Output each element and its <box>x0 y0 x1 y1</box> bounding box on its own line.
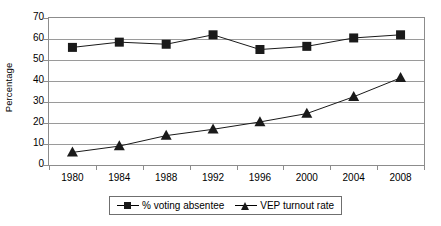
x-axis-tick-mark <box>283 166 284 170</box>
triangle-marker-icon <box>241 202 249 210</box>
x-axis-tick-label: 1980 <box>47 172 97 184</box>
x-axis-tick-mark <box>143 166 144 170</box>
y-axis-tick-labels: 706050403020100 <box>16 17 44 166</box>
y-axis-tick-label: 30 <box>20 96 44 106</box>
square-marker-icon <box>349 33 358 42</box>
square-marker-icon <box>209 30 218 39</box>
triangle-marker-icon <box>395 72 406 82</box>
legend-item[interactable]: VEP turnout rate <box>235 200 334 211</box>
x-axis-tick-mark <box>237 166 238 170</box>
y-axis-tick-label: 20 <box>20 117 44 127</box>
y-axis-tick-label: 40 <box>20 75 44 85</box>
series-square <box>68 30 405 54</box>
x-axis-tick-label: 1984 <box>94 172 144 184</box>
x-axis-tick-mark <box>377 166 378 170</box>
y-axis-tick-label: 50 <box>20 54 44 64</box>
x-axis-tick-marks <box>48 166 425 171</box>
square-marker-icon <box>68 43 77 52</box>
square-marker-icon <box>117 200 139 211</box>
plot-area <box>48 17 425 166</box>
chart-legend: % voting absenteeVEP turnout rate <box>109 196 342 215</box>
square-marker-icon <box>162 40 171 49</box>
legend-item[interactable]: % voting absentee <box>117 200 224 211</box>
x-axis-tick-label: 2000 <box>282 172 332 184</box>
x-axis-tick-label: 2008 <box>376 172 426 184</box>
plot-svg <box>49 18 424 165</box>
triangle-marker-icon <box>301 108 312 118</box>
series-triangle <box>67 72 406 157</box>
triangle-marker-icon <box>235 200 257 211</box>
y-axis-tick-label: 10 <box>20 138 44 148</box>
x-axis-tick-mark <box>96 166 97 170</box>
y-axis-tick-label: 70 <box>20 12 44 22</box>
y-axis-tick-label: 0 <box>20 159 44 169</box>
y-axis-title-label: Percentage <box>4 63 15 113</box>
square-marker-icon <box>124 202 131 209</box>
legend-item-label: VEP turnout rate <box>260 200 334 211</box>
x-axis-tick-label: 1996 <box>235 172 285 184</box>
square-marker-icon <box>255 45 264 54</box>
x-axis-tick-mark <box>330 166 331 170</box>
x-axis-tick-label: 2004 <box>329 172 379 184</box>
series-line <box>72 78 400 153</box>
x-axis-tick-label: 1992 <box>188 172 238 184</box>
line-chart: Percentage 706050403020100 1980198419881… <box>0 0 441 226</box>
legend-item-label: % voting absentee <box>142 200 224 211</box>
x-axis-tick-labels: 19801984198819921996200020042008 <box>48 172 425 186</box>
x-axis-tick-label: 1988 <box>141 172 191 184</box>
square-marker-icon <box>115 38 124 47</box>
triangle-marker-icon <box>348 91 359 101</box>
square-marker-icon <box>396 30 405 39</box>
x-axis-tick-mark <box>190 166 191 170</box>
square-marker-icon <box>302 42 311 51</box>
y-axis-tick-label: 60 <box>20 33 44 43</box>
x-axis-tick-mark <box>424 166 425 170</box>
x-axis-tick-mark <box>49 166 50 170</box>
